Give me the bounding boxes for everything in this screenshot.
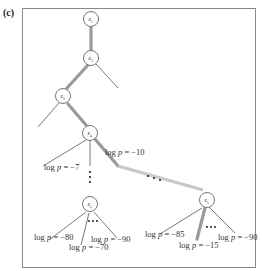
frame	[23, 9, 256, 268]
label-right-leaf-2: log p = −15	[179, 240, 219, 250]
node-z5-right: z5	[200, 193, 215, 208]
label-right-leaf-1: log p = −85	[145, 229, 185, 239]
label-z4-child-logp: log p = −7	[44, 162, 79, 172]
label-z4-right-logp: log p = −10	[105, 147, 145, 157]
node-z5-left: z5	[83, 197, 98, 212]
node-z2: z2	[84, 51, 99, 66]
node-z4: z4	[83, 126, 98, 141]
node-z1: z1	[84, 12, 99, 27]
label-left-leaf-3: log p = −90	[91, 234, 131, 244]
search-tree-diagram: z1 z2 z3 z4 z5 z5 log p = −10 log p = −7…	[0, 0, 262, 271]
label-right-leaf-3: log p = −90	[218, 232, 258, 242]
ellipsis-markers	[88, 171, 216, 228]
label-left-leaf-1: log p = −80	[34, 232, 74, 242]
node-z3: z3	[56, 89, 71, 104]
